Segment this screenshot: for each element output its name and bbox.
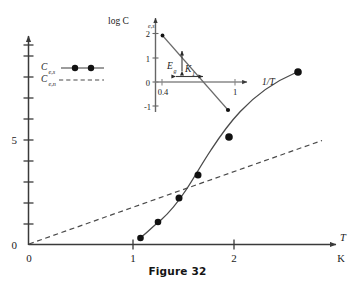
figure-canvas: 5 0 0 1 2 T K xyxy=(0,0,355,292)
inset-x-axis: 0.4 1 1/T xyxy=(156,77,276,97)
inset-label-eg-sub: g xyxy=(174,68,177,74)
legend-sub-ce-s: e,s xyxy=(49,68,56,75)
inset-y-tick-0: 0 xyxy=(146,78,150,88)
inset-y-tick-neg1: -1 xyxy=(144,102,151,112)
main-y-tick-5: 5 xyxy=(12,134,18,146)
main-x-axis-label: T xyxy=(340,232,347,243)
legend-label-ce-n: C xyxy=(41,74,48,84)
inset-y-axis-label: log C xyxy=(108,16,129,26)
legend-entry-ce-s[interactable]: C e,s xyxy=(41,62,104,75)
inset-label-k-sub: 1 xyxy=(192,71,195,77)
legend-marker xyxy=(88,65,94,71)
figure-caption: Figure 32 xyxy=(0,265,355,277)
inset-annotation-slope-constant: K 1 xyxy=(176,64,203,77)
figure-32-container: 5 0 0 1 2 T K xyxy=(0,0,355,292)
data-point xyxy=(176,195,183,202)
inset-y-tick-1: 1 xyxy=(146,54,150,64)
inset-y-tick-2: 2 xyxy=(146,29,150,39)
inset-y-axis: 2 1 0 -1 log C e,s xyxy=(108,16,159,112)
main-x-unit-label: K xyxy=(337,253,345,264)
main-x-tick-2: 2 xyxy=(231,252,237,264)
inset-x-axis-label: 1/T xyxy=(262,77,275,87)
legend: C e,s C e,n xyxy=(41,62,104,87)
inset-plot: 2 1 0 -1 log C e,s 0.4 1 1/T xyxy=(108,16,275,112)
data-point xyxy=(155,219,162,226)
inset-y-axis-label-sub: e,s xyxy=(148,23,155,29)
legend-label-ce-s: C xyxy=(41,62,48,72)
inset-data-point xyxy=(161,34,165,38)
inset-x-tick-04: 0.4 xyxy=(158,87,169,97)
main-y-axis: 5 0 xyxy=(12,36,34,251)
data-point xyxy=(294,68,302,76)
main-x-axis: 0 1 2 T K xyxy=(26,232,347,264)
data-point xyxy=(225,133,233,141)
legend-sub-ce-n: e,n xyxy=(49,80,56,87)
main-y-tick-0: 0 xyxy=(12,239,18,251)
inset-series-arrhenius xyxy=(161,34,230,113)
data-point xyxy=(195,172,202,179)
inset-label-k: K xyxy=(184,64,192,74)
main-x-tick-1: 1 xyxy=(130,252,136,264)
series-ce-n-dashed xyxy=(29,141,322,245)
inset-x-tick-1: 1 xyxy=(233,87,237,97)
data-point xyxy=(137,235,144,242)
legend-marker xyxy=(72,65,78,71)
main-x-tick-0: 0 xyxy=(26,252,32,264)
inset-data-point xyxy=(226,108,230,112)
inset-label-eg: E xyxy=(166,61,173,71)
legend-entry-ce-n[interactable]: C e,n xyxy=(41,74,104,87)
